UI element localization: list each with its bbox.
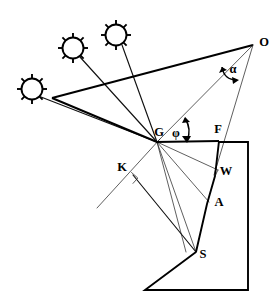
label-point-A: A bbox=[214, 195, 223, 209]
sun-middle bbox=[58, 33, 88, 63]
sun-right bbox=[101, 20, 131, 50]
diagram-canvas: O α G φ F W A S K bbox=[0, 0, 279, 307]
label-angle-phi: φ bbox=[172, 126, 180, 140]
label-point-S: S bbox=[200, 247, 207, 261]
diagram-background bbox=[0, 0, 279, 307]
label-point-G: G bbox=[154, 125, 164, 139]
geometry-diagram: O α G φ F W A S K bbox=[0, 0, 279, 307]
sun-left bbox=[17, 74, 47, 104]
label-angle-alpha: α bbox=[230, 62, 237, 76]
label-point-O: O bbox=[259, 35, 269, 49]
label-point-F: F bbox=[214, 122, 222, 136]
label-point-K: K bbox=[117, 160, 127, 174]
label-point-W: W bbox=[220, 164, 233, 178]
